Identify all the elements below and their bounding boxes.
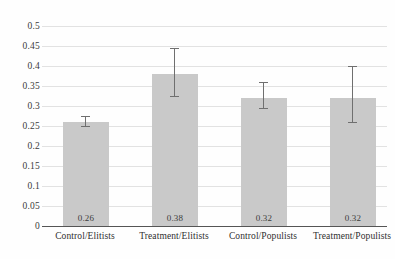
y-tick-label: 0.3 bbox=[2, 102, 40, 112]
gridline bbox=[42, 26, 387, 27]
error-bar-control-elitists bbox=[85, 116, 86, 126]
bar-value-label: 0.26 bbox=[63, 214, 109, 223]
y-tick-label: 0.2 bbox=[2, 142, 40, 152]
bar-value-label: 0.38 bbox=[152, 214, 198, 223]
bar-control-elitists: 0.26 bbox=[63, 122, 109, 226]
error-bar-control-populists bbox=[263, 82, 264, 108]
bar-value-label: 0.32 bbox=[241, 214, 287, 223]
y-tick-label: 0.15 bbox=[2, 162, 40, 172]
y-tick-label: 0.25 bbox=[2, 122, 40, 132]
error-bar-cap-bottom bbox=[259, 108, 268, 109]
error-bar-treatment-elitists bbox=[174, 48, 175, 96]
y-tick-label: 0.4 bbox=[2, 62, 40, 72]
error-bar-cap-bottom bbox=[170, 96, 179, 97]
error-bar-cap-top bbox=[170, 48, 179, 49]
bar-chart: 0.5 0.45 0.4 0.35 0.3 0.25 0.2 0.15 0.1 … bbox=[0, 0, 395, 259]
gridline bbox=[42, 86, 387, 87]
error-bar-cap-top bbox=[348, 66, 357, 67]
y-axis: 0.5 0.45 0.4 0.35 0.3 0.25 0.2 0.15 0.1 … bbox=[0, 0, 40, 259]
gridline bbox=[42, 46, 387, 47]
y-tick-label: 0.35 bbox=[2, 82, 40, 92]
error-bar-cap-top bbox=[259, 82, 268, 83]
bar-treatment-populists: 0.32 bbox=[330, 98, 376, 226]
error-bar-cap-bottom bbox=[81, 126, 90, 127]
bar-value-label: 0.32 bbox=[330, 214, 376, 223]
gridline bbox=[42, 66, 387, 67]
y-tick-label: 0.05 bbox=[2, 202, 40, 212]
error-bar-cap-top bbox=[81, 116, 90, 117]
y-tick-label: 0.5 bbox=[2, 22, 40, 32]
x-tick-label-treatment-populists: Treatment/Populists bbox=[285, 231, 395, 241]
x-axis-line bbox=[42, 226, 387, 227]
error-bar-cap-bottom bbox=[348, 122, 357, 123]
plot-area: 0.26 0.38 0.32 0.32 bbox=[42, 20, 387, 232]
y-tick-label: 0.45 bbox=[2, 42, 40, 52]
bar-control-populists: 0.32 bbox=[241, 98, 287, 226]
y-tick-label: 0.1 bbox=[2, 182, 40, 192]
error-bar-treatment-populists bbox=[352, 66, 353, 122]
